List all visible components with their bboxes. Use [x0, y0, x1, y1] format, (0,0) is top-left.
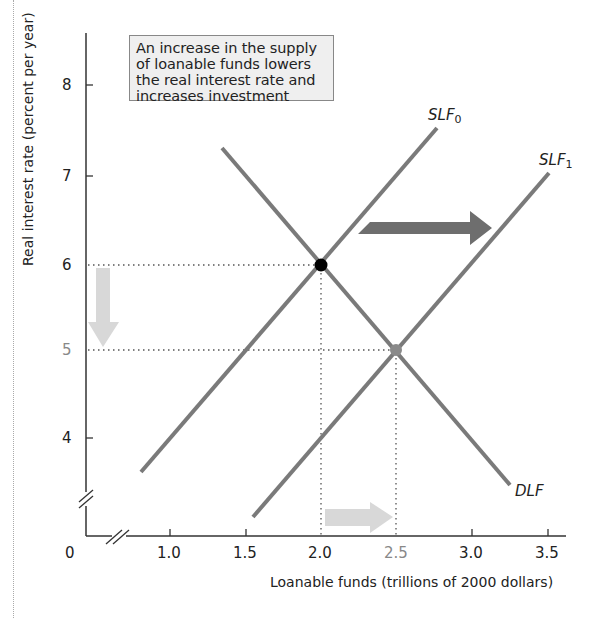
annotation-box: An increase in the supply of loanable fu…: [129, 35, 334, 101]
x-tick-label: 3.0: [459, 544, 483, 562]
dlf-label: DLF: [515, 482, 544, 500]
slf0-label-sub: 0: [455, 113, 462, 126]
x-axis-break-icon: [106, 530, 129, 544]
x-tick-label: 2.0: [308, 544, 332, 562]
slf0-label-main: SLF: [428, 106, 455, 124]
y-tick-label-highlighted: 5: [62, 341, 72, 359]
annotation-line: An increase in the supply: [136, 40, 333, 56]
x-tick-label-highlighted: 2.5: [384, 544, 408, 562]
y-ticks: [86, 85, 93, 438]
x-tick-label: 1.5: [233, 544, 257, 562]
annotation-line: of loanable funds lowers: [136, 56, 333, 72]
rate-fall-arrow-icon: [88, 268, 119, 347]
slf1-label-main: SLF: [539, 151, 566, 169]
slf1-label: SLF1: [539, 151, 573, 171]
y-tick-label: 6: [62, 256, 72, 274]
dlf-curve: [222, 148, 510, 485]
x-tick-label: 3.5: [535, 544, 559, 562]
y-tick-label: 7: [62, 167, 72, 185]
initial-equilibrium-point: [315, 259, 328, 272]
x-tick-label: 0: [65, 544, 75, 562]
new-equilibrium-point: [390, 344, 402, 356]
slf0-curve: [141, 128, 437, 472]
slf1-label-sub: 1: [566, 158, 573, 171]
supply-shift-arrow-icon: [358, 211, 492, 245]
y-axis-title: Real interest rate (percent per year): [20, 86, 36, 266]
y-tick-label: 8: [62, 76, 72, 94]
annotation-line: the real interest rate and: [136, 72, 333, 88]
y-axis-break-icon: [79, 490, 93, 508]
x-axis-title: Loanable funds (trillions of 2000 dollar…: [270, 574, 553, 590]
y-tick-label: 4: [62, 429, 72, 447]
x-ticks: [170, 529, 548, 536]
guide-lines: [88, 265, 396, 536]
slf0-label: SLF0: [428, 106, 462, 126]
x-tick-label: 1.0: [157, 544, 181, 562]
annotation-line: increases investment: [136, 88, 333, 104]
funds-increase-arrow-icon: [325, 502, 393, 533]
